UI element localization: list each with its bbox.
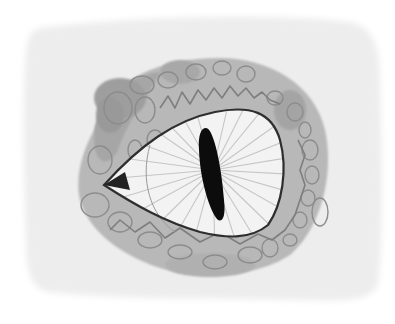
illustration-svg [0,0,395,324]
reptile-eye-illustration: Reptile eye watercolor [0,0,395,324]
